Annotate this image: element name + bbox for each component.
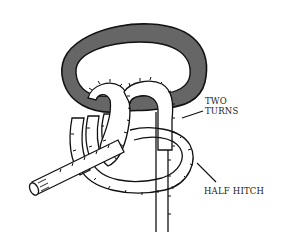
half-hitch-label: HALF HITCH xyxy=(204,187,264,197)
half-hitch-leader xyxy=(197,163,216,182)
knot-illustration xyxy=(0,0,294,245)
knot-diagram: TWO TURNS HALF HITCH xyxy=(0,0,294,245)
two-turns-label-line2: TURNS xyxy=(205,107,239,117)
two-turns-leader xyxy=(182,111,203,118)
ring xyxy=(62,24,207,112)
leader-lines xyxy=(182,111,216,182)
two-turns-label: TWO TURNS xyxy=(205,97,239,116)
